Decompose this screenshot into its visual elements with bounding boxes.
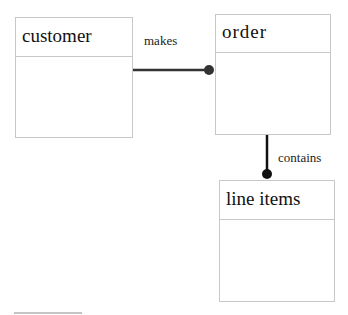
contains-endpoint-dot — [262, 169, 272, 179]
entity-customer[interactable]: customer — [15, 17, 133, 138]
entity-order-title: order — [216, 15, 330, 53]
relationship-label-makes: makes — [144, 33, 177, 49]
entity-line-items[interactable]: line items — [219, 180, 335, 302]
entity-line-items-title: line items — [220, 181, 334, 220]
entity-order[interactable]: order — [215, 14, 331, 135]
relationship-label-contains: contains — [278, 150, 321, 166]
makes-endpoint-dot — [204, 65, 214, 75]
entity-customer-title: customer — [16, 18, 132, 57]
